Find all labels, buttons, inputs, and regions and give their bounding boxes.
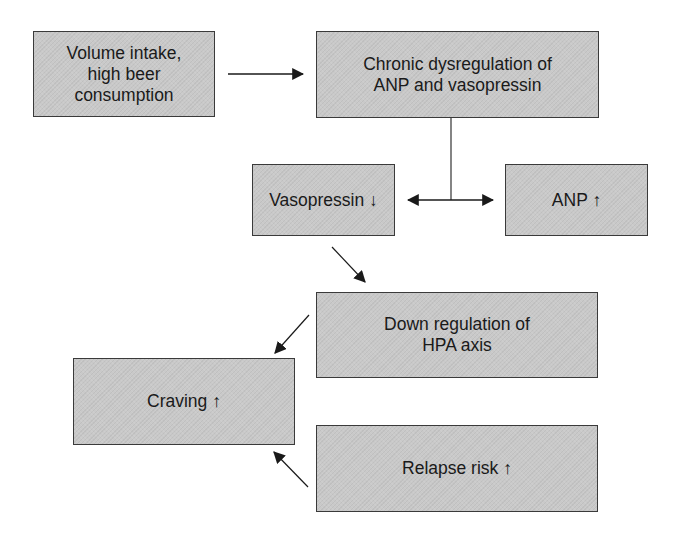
node-chronic-dysregulation: Chronic dysregulation of ANP and vasopre… (316, 31, 599, 118)
node-anp: ANP ↑ (505, 164, 648, 236)
node-relapse-risk: Relapse risk ↑ (316, 425, 598, 512)
arrow-vasopressin-to-down-regulation (332, 247, 365, 282)
node-craving: Craving ↑ (73, 358, 295, 445)
node-relapse-risk-label: Relapse risk ↑ (402, 458, 512, 479)
arrow-relapse-to-craving (274, 452, 308, 487)
node-volume-intake: Volume intake, high beer consumption (33, 31, 215, 117)
node-vasopressin: Vasopressin ↓ (252, 164, 395, 236)
node-volume-intake-label: Volume intake, high beer consumption (67, 43, 182, 106)
node-chronic-dysregulation-label: Chronic dysregulation of ANP and vasopre… (363, 54, 552, 96)
node-down-regulation-label: Down regulation of HPA axis (384, 314, 530, 356)
arrow-down-regulation-to-craving (275, 315, 309, 353)
node-anp-label: ANP ↑ (552, 190, 601, 211)
node-down-regulation: Down regulation of HPA axis (316, 292, 598, 378)
node-vasopressin-label: Vasopressin ↓ (269, 190, 378, 211)
node-craving-label: Craving ↑ (147, 391, 221, 412)
